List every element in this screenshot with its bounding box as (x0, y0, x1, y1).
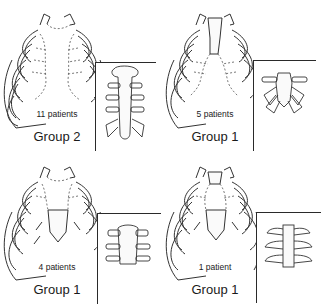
sternum-inset-illustration (96, 63, 156, 151)
patients-count-label: 1 patient (199, 262, 232, 272)
sternum-inset-illustration (98, 214, 161, 304)
patients-count-label: 4 patients (39, 262, 76, 272)
panel-top-left: 11 patients Group 2 (0, 0, 160, 152)
inset-box (95, 62, 156, 151)
panel-top-right: 5 patients Group 1 (160, 0, 320, 152)
panel-bottom-right: 1 patient Group 1 (160, 152, 320, 305)
inset-box (97, 213, 161, 304)
group-label: Group 1 (34, 282, 81, 297)
sternum-inset-illustration (254, 61, 316, 151)
patients-count-label: 11 patients (37, 109, 78, 119)
sternum-inset-illustration (257, 213, 321, 303)
group-label: Group 1 (192, 129, 239, 144)
group-label: Group 2 (34, 129, 81, 144)
inset-box (256, 212, 321, 303)
patients-count-label: 5 patients (197, 109, 234, 119)
panel-bottom-left: 4 patients Group 1 (0, 152, 160, 305)
inset-box (253, 60, 316, 151)
group-label: Group 1 (192, 282, 239, 297)
